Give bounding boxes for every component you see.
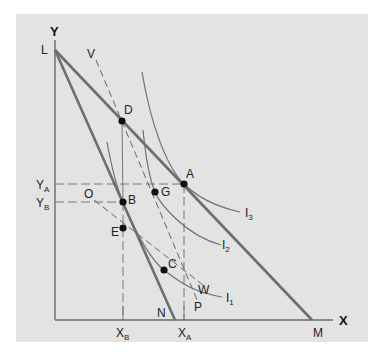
label-n: N xyxy=(157,306,166,320)
label-i2: I2 xyxy=(222,238,230,254)
label-xa: XA xyxy=(178,326,192,342)
label-ya: YA xyxy=(36,178,50,194)
label-p: P xyxy=(194,300,202,314)
d-to-b-vertical xyxy=(122,121,123,202)
point-c xyxy=(160,266,167,273)
point-a xyxy=(180,180,187,187)
point-d xyxy=(118,117,125,124)
label-e: E xyxy=(111,225,119,239)
label-i1: I1 xyxy=(226,291,234,307)
label-m: M xyxy=(313,326,323,340)
label-b: B xyxy=(128,193,136,207)
label-o: O xyxy=(84,187,93,201)
label-i3: I3 xyxy=(245,206,253,222)
x-axis-label: X xyxy=(339,313,348,328)
point-g xyxy=(151,188,158,195)
label-l: L xyxy=(41,43,48,57)
label-a: A xyxy=(186,167,194,181)
label-w: W xyxy=(198,283,210,297)
label-c: C xyxy=(168,257,177,271)
label-d: D xyxy=(124,103,133,117)
point-b xyxy=(119,198,126,205)
ow-dashed-line xyxy=(94,200,203,285)
label-g: G xyxy=(161,185,170,199)
budget-line-ln xyxy=(55,50,175,320)
point-e xyxy=(119,224,126,231)
label-yb: YB xyxy=(36,196,49,212)
economics-diagram: Y X L V D A G B O E C W P N M I3 I2 I1 Y… xyxy=(0,0,368,357)
y-axis-label: Y xyxy=(50,24,59,39)
label-v: V xyxy=(87,47,95,61)
label-xb: XB xyxy=(116,326,129,342)
indifference-curve-i2 xyxy=(143,130,221,245)
